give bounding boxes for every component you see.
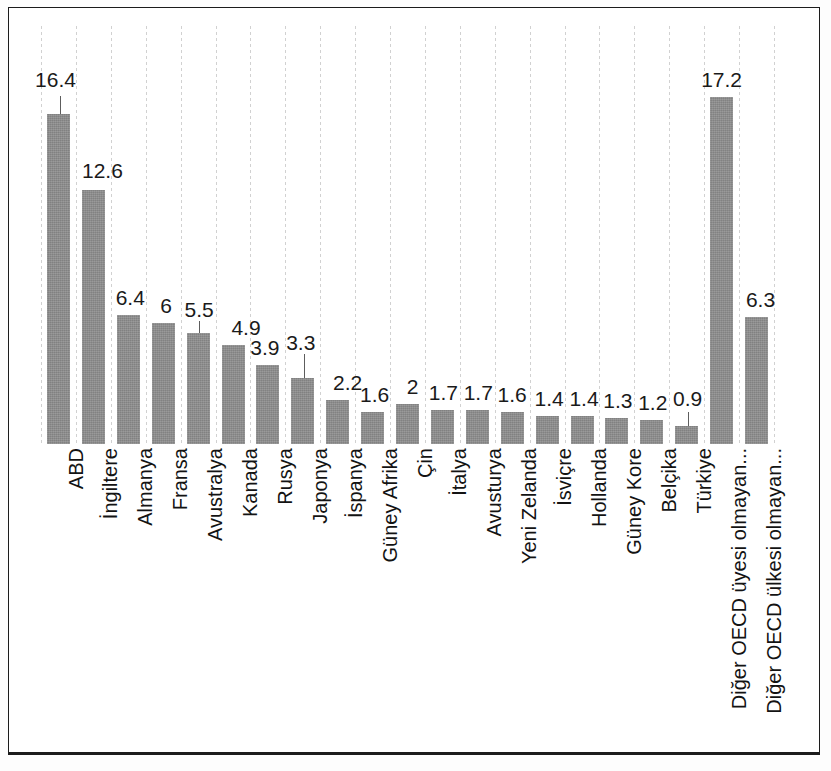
bar-value-label: 1.3 <box>603 390 632 411</box>
category-label: İtalya <box>449 448 469 496</box>
category-label: Belçika <box>659 448 679 512</box>
bar <box>675 426 698 444</box>
bar-value-label: 1.2 <box>638 392 667 413</box>
bar <box>536 416 559 444</box>
category-label: Diğer OECD ülkesi olmayan... <box>764 448 784 714</box>
category-label: İspanya <box>345 448 365 518</box>
bar-value-label: 5.5 <box>184 299 213 320</box>
bar-value-label: 12.6 <box>82 160 123 181</box>
bar-value-label: 3.3 <box>286 332 315 353</box>
bar <box>710 97 733 444</box>
category-label: Japonya <box>310 448 330 524</box>
bar-value-label: 3.9 <box>250 337 279 358</box>
bar-value-label: 1.6 <box>498 384 527 405</box>
category-label: Kanada <box>240 448 260 517</box>
value-leader-line <box>199 321 200 333</box>
bar <box>47 114 70 444</box>
category-label: İsviçre <box>554 448 574 506</box>
value-leader-line <box>304 354 305 378</box>
bar-value-label: 1.7 <box>429 382 458 403</box>
value-leader-line <box>688 412 689 426</box>
bar <box>326 400 349 444</box>
category-label: Avusturya <box>484 448 504 537</box>
bar <box>571 416 594 444</box>
category-label: İngiltere <box>100 448 120 519</box>
bar <box>291 378 314 444</box>
bar <box>466 410 489 444</box>
category-label: Güney Afrika <box>380 448 400 563</box>
category-label: Yeni Zelanda <box>519 448 539 564</box>
value-leader-line <box>60 96 61 114</box>
category-label: Hollanda <box>589 448 609 527</box>
category-label: Güney Kore <box>624 448 644 555</box>
bar-value-label: 1.7 <box>464 382 493 403</box>
bar <box>256 365 279 444</box>
bar <box>222 345 245 444</box>
bar-value-label: 6.4 <box>116 287 145 308</box>
bar <box>605 418 628 444</box>
chart-bars-layer: 16.412.66.465.54.93.93.32.21.621.71.71.6… <box>21 26 807 444</box>
screenshot-root: 16.412.66.465.54.93.93.32.21.621.71.71.6… <box>0 0 831 771</box>
bar-value-label: 6.3 <box>746 289 775 310</box>
bar <box>396 404 419 444</box>
bar <box>361 412 384 444</box>
bar <box>640 420 663 444</box>
bar <box>117 315 140 444</box>
document-frame: 16.412.66.465.54.93.93.32.21.621.71.71.6… <box>8 7 820 755</box>
bar-value-label: 1.6 <box>360 384 389 405</box>
bar-value-label: 17.2 <box>701 69 742 90</box>
bar-value-label: 1.4 <box>534 388 563 409</box>
category-label: ABD <box>66 448 86 489</box>
bar-value-label: 1.4 <box>569 388 598 409</box>
category-label: Fransa <box>170 448 190 510</box>
bar <box>745 317 768 444</box>
bar-value-label: 4.9 <box>231 317 260 338</box>
bar <box>152 323 175 444</box>
bar <box>501 412 524 444</box>
bar <box>431 410 454 444</box>
category-label: Türkiye <box>694 448 714 514</box>
bar-value-label: 2 <box>407 376 419 397</box>
category-label: Çin <box>415 448 435 478</box>
bar <box>187 333 210 444</box>
bar-value-label: 6 <box>160 295 172 316</box>
chart-plot-area: 16.412.66.465.54.93.93.32.21.621.71.71.6… <box>21 26 807 444</box>
bar-value-label: 2.2 <box>333 372 362 393</box>
category-label: Almanya <box>135 448 155 526</box>
category-label: Rusya <box>275 448 295 505</box>
bar <box>82 190 105 444</box>
category-label: Diğer OECD üyesi olmayan... <box>729 448 749 709</box>
category-label: Avustralya <box>205 448 225 541</box>
bar-value-label: 0.9 <box>673 388 702 409</box>
chart-category-axis-labels: ABDİngiltereAlmanyaFransaAvustralyaKanad… <box>21 448 807 748</box>
bar-value-label: 16.4 <box>35 69 76 90</box>
